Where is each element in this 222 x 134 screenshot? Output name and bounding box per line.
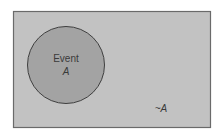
event-a-circle xyxy=(28,27,105,104)
event-a-label-line2: A xyxy=(62,66,70,77)
complement-label: ~A xyxy=(155,103,168,114)
event-a-label-line1: Event xyxy=(53,53,79,64)
venn-diagram: Event A ~A xyxy=(0,0,222,134)
